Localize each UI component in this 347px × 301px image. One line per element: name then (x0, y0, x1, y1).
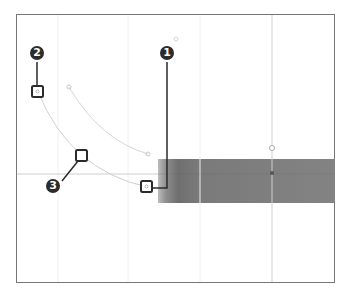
callout-1: 1 (160, 46, 174, 60)
anchor-point-bottom-icon[interactable] (141, 181, 152, 192)
center-point-icon (270, 171, 274, 175)
inner-curve (69, 87, 148, 154)
anchor-point-top-icon[interactable] (32, 86, 43, 97)
callout-2: 2 (30, 46, 44, 60)
control-point-icon[interactable] (174, 37, 178, 41)
leader-line-1 (152, 62, 167, 188)
bezier-curve (38, 92, 147, 187)
diagram-canvas (0, 0, 347, 301)
callout-3: 3 (46, 179, 60, 193)
curve-midpoint-icon[interactable] (76, 150, 87, 161)
guide-point-icon[interactable] (270, 146, 275, 151)
leader-line-3 (62, 161, 78, 181)
